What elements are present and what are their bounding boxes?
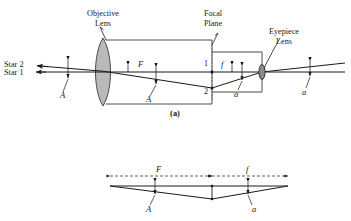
figure-canvas: Objective Lens Focal Plane Eyepiece Lens… bbox=[0, 0, 351, 221]
objective-lens-label-line2: Lens bbox=[65, 20, 141, 29]
bottom-dimension-f-symbol: f bbox=[246, 165, 248, 174]
bottom-dimension-F-symbol: F bbox=[156, 165, 161, 174]
angle-A-mid-ticks bbox=[150, 67, 156, 96]
star2-ray bbox=[37, 66, 212, 88]
bottom-angle-A-ticks bbox=[150, 182, 155, 205]
angle-A-mid-symbol: A bbox=[146, 95, 151, 104]
angle-a-inside-ticks bbox=[238, 66, 242, 90]
angle-A-left-symbol: A bbox=[60, 91, 65, 100]
angle-a-inside-symbol: a bbox=[234, 90, 238, 99]
focal-length-F-symbol: F bbox=[138, 60, 143, 69]
eyepiece-lens-label-line1: Eyepiece bbox=[253, 28, 315, 37]
focal-plane-label-line1: Focal bbox=[186, 10, 240, 19]
objective-lens-label-line1: Objective bbox=[65, 10, 141, 19]
star1-label: Star 1 bbox=[4, 69, 24, 78]
eyepiece-lens-label-line2: Lens bbox=[253, 38, 315, 47]
bottom-v-rays bbox=[110, 185, 288, 201]
angle-a-outside-ticks bbox=[306, 61, 310, 88]
angle-A-left-ticks bbox=[63, 60, 68, 92]
image-point-2-label: 2 bbox=[204, 88, 208, 97]
angle-a-outside-symbol: a bbox=[302, 88, 306, 97]
eyepiece-lens bbox=[259, 65, 265, 80]
bottom-angle-a-ticks bbox=[248, 182, 252, 205]
bottom-angle-A-symbol: A bbox=[146, 205, 151, 214]
focal-plane-leader bbox=[212, 33, 218, 45]
bottom-angle-a-symbol: a bbox=[252, 205, 256, 214]
focal-plane-label-line2: Plane bbox=[186, 20, 240, 29]
focal-length-f-symbol: f bbox=[221, 60, 223, 69]
figure-caption-a: (a) bbox=[145, 110, 205, 119]
image-point-1-label: 1 bbox=[204, 60, 208, 69]
